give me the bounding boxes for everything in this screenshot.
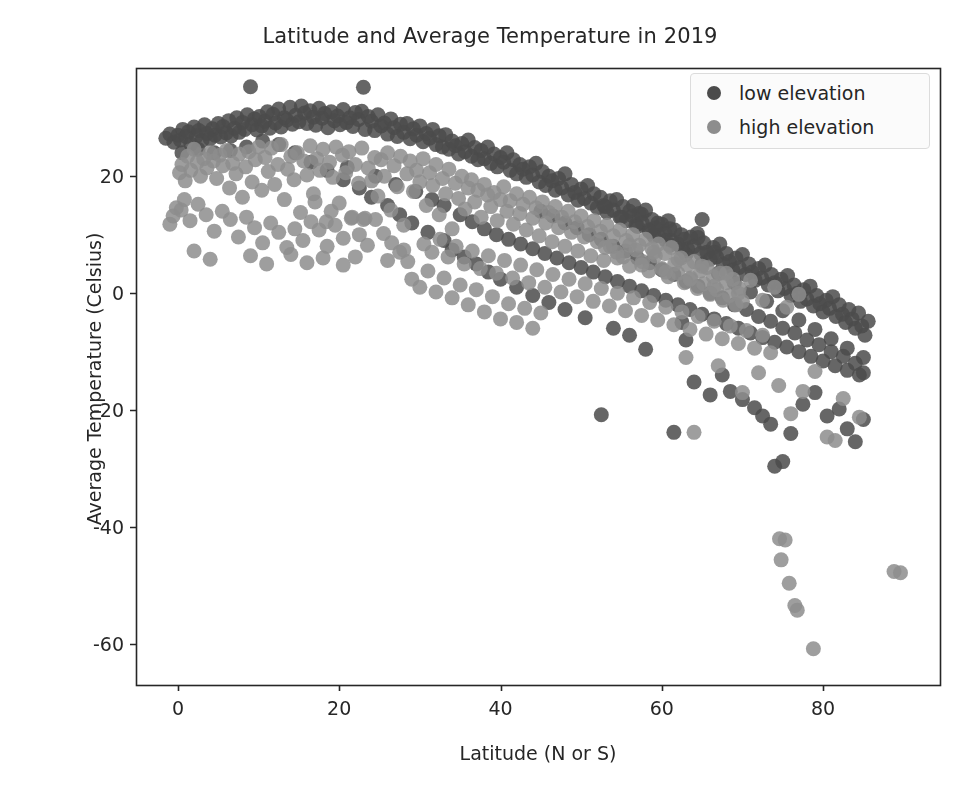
y-tick-label: 20 <box>100 165 124 187</box>
y-tick-label: 0 <box>112 282 124 304</box>
x-tick-label: 0 <box>172 697 184 719</box>
legend-marker-high-elevation <box>707 120 721 134</box>
x-tick-label: 60 <box>650 697 674 719</box>
x-tick-label: 40 <box>488 697 512 719</box>
x-tick-label: 80 <box>811 697 835 719</box>
legend-entry-high-elevation[interactable]: high elevation <box>691 112 931 142</box>
matplotlib-figure: Latitude and Average Temperature in 2019… <box>0 0 980 792</box>
y-tick-label: -60 <box>93 633 124 655</box>
legend-label-low-elevation: low elevation <box>739 79 865 107</box>
legend-entry-low-elevation[interactable]: low elevation <box>691 78 931 108</box>
legend[interactable]: low elevation high elevation <box>690 73 930 149</box>
y-tick-label: -20 <box>93 399 124 421</box>
y-axis-label: Average Temperature (Celsius) <box>83 69 105 689</box>
legend-marker-low-elevation <box>707 86 721 100</box>
chart-title: Latitude and Average Temperature in 2019 <box>0 24 980 48</box>
legend-label-high-elevation: high elevation <box>739 113 874 141</box>
y-tick-label: -40 <box>93 516 124 538</box>
x-axis-label: Latitude (N or S) <box>136 742 940 764</box>
x-tick-label: 20 <box>327 697 351 719</box>
